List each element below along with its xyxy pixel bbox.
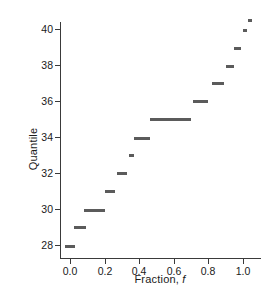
x-tick-label: 0.8 [188, 266, 228, 277]
y-tick-label: 38 [23, 60, 53, 71]
quantile-plot-figure: Quantile Fraction, f 28303234363840 0.00… [0, 0, 276, 298]
y-tick-label: 30 [23, 204, 53, 215]
data-point-segment [117, 172, 127, 175]
data-point-segment [150, 118, 192, 121]
x-tick-mark [105, 259, 106, 264]
x-tick-label: 0.0 [50, 266, 90, 277]
x-tick-mark [208, 259, 209, 264]
x-tick-mark [243, 259, 244, 264]
data-point-segment [84, 209, 105, 212]
x-tick-mark [174, 259, 175, 264]
data-point-segment [234, 47, 241, 50]
y-tick-label: 32 [23, 168, 53, 179]
y-tick-mark [55, 137, 60, 138]
y-tick-label: 36 [23, 96, 53, 107]
y-tick-mark [55, 65, 60, 66]
data-point-segment [226, 65, 235, 68]
y-tick-label: 28 [23, 240, 53, 251]
data-point-segment [212, 82, 224, 85]
data-point-segment [105, 190, 115, 193]
data-point-segment [134, 137, 150, 140]
data-point-segment [74, 226, 86, 229]
data-point-segment [193, 100, 209, 103]
y-tick-label: 34 [23, 132, 53, 143]
y-tick-label: 40 [23, 24, 53, 35]
y-tick-mark [55, 173, 60, 174]
x-tick-label: 0.4 [119, 266, 159, 277]
y-tick-mark [55, 209, 60, 210]
x-tick-mark [70, 259, 71, 264]
y-axis-label: Quantile [22, 0, 44, 298]
y-tick-mark [55, 245, 60, 246]
x-axis-spine [60, 258, 261, 259]
x-tick-label: 1.0 [223, 266, 263, 277]
y-tick-mark [55, 101, 60, 102]
y-tick-mark [55, 29, 60, 30]
data-point-segment [248, 19, 252, 22]
data-point-segment [129, 154, 134, 157]
x-tick-mark [139, 259, 140, 264]
data-point-segment [243, 29, 247, 32]
data-point-segment [65, 245, 75, 248]
y-axis-spine [60, 22, 61, 259]
